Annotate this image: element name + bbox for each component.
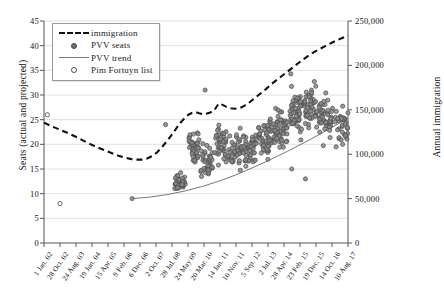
filled-dot-icon bbox=[71, 43, 77, 49]
legend-label: PVV seats bbox=[91, 39, 130, 51]
legend-label: immigration bbox=[91, 27, 138, 39]
chart-legend: immigrationPVV seatsPVV trendPim Fortuyn… bbox=[52, 23, 160, 81]
legend-item[interactable]: PVV trend bbox=[57, 52, 153, 64]
solid-line-icon bbox=[59, 57, 89, 58]
open-dot-icon bbox=[71, 67, 77, 73]
chart-root: Seats (actual and projected) Annual immi… bbox=[0, 0, 444, 304]
dashed-line-icon bbox=[59, 32, 89, 34]
legend-item[interactable]: immigration bbox=[57, 27, 153, 39]
legend-label: Pim Fortuyn list bbox=[91, 64, 153, 76]
legend-label: PVV trend bbox=[91, 52, 131, 64]
legend-item[interactable]: Pim Fortuyn list bbox=[57, 64, 153, 76]
legend-item[interactable]: PVV seats bbox=[57, 39, 153, 51]
